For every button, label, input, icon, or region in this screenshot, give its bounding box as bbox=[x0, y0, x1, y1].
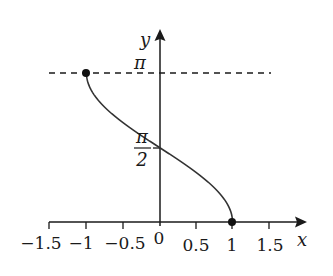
x-tick-label: −1.5 bbox=[20, 233, 61, 253]
x-tick-label: 0.5 bbox=[182, 235, 209, 255]
arccos-plot: −1.5 −1 −0.5 0 0.5 1 1.5 x y π π 2 bbox=[0, 0, 333, 276]
y-tick-label-pi-half-numerator: π bbox=[135, 126, 149, 147]
x-tick-label: −0.5 bbox=[104, 233, 145, 253]
y-tick-label-pi: π bbox=[133, 52, 147, 73]
x-tick-label: 1.5 bbox=[256, 235, 283, 255]
y-axis-label: y bbox=[139, 29, 151, 50]
endpoint-right bbox=[228, 218, 236, 226]
endpoint-left bbox=[82, 69, 90, 77]
x-tick-label: 0 bbox=[154, 228, 165, 248]
x-axis-label: x bbox=[297, 229, 307, 250]
x-tick-label: 1 bbox=[227, 235, 238, 255]
x-tick-labels: −1.5 −1 −0.5 0 0.5 1 1.5 bbox=[20, 228, 283, 255]
y-tick-label-pi-half-denominator: 2 bbox=[135, 149, 147, 170]
x-tick-label: −1 bbox=[68, 233, 93, 253]
